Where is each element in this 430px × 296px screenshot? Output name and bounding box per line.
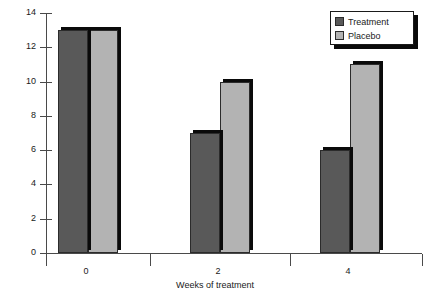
bar-placebo-week-4 xyxy=(350,64,380,253)
y-axis-tick-label: 2 xyxy=(8,214,36,223)
legend-item-treatment: Treatment xyxy=(335,15,413,28)
legend-swatch-icon xyxy=(335,31,344,40)
y-axis-tick xyxy=(40,253,52,254)
y-axis-tick xyxy=(40,116,52,117)
y-axis-tick-label: 14 xyxy=(8,8,36,17)
legend-box: Treatment Placebo xyxy=(330,11,414,45)
legend-label: Treatment xyxy=(348,17,389,27)
x-axis-tick-label: 0 xyxy=(66,266,106,276)
x-axis-tick xyxy=(422,254,423,266)
y-axis-tick xyxy=(40,47,52,48)
bar-face xyxy=(350,64,380,253)
bar-placebo-week-2 xyxy=(220,82,250,253)
bar-treatment-week-0 xyxy=(58,30,88,253)
y-axis-tick-label: 6 xyxy=(8,145,36,154)
y-axis-tick xyxy=(40,184,52,185)
y-axis-tick xyxy=(40,219,52,220)
bar-treatment-week-4 xyxy=(320,150,350,253)
y-axis-tick-label: 12 xyxy=(8,42,36,51)
x-axis-tick-label: 2 xyxy=(198,266,238,276)
legend-item-placebo: Placebo xyxy=(335,29,413,42)
bar-treatment-week-2 xyxy=(190,133,220,253)
legend: Treatment Placebo xyxy=(330,11,414,45)
y-axis-tick-label: 8 xyxy=(8,111,36,120)
y-axis-tick xyxy=(40,13,52,14)
bar-face xyxy=(190,133,220,253)
legend-swatch-icon xyxy=(335,17,344,26)
x-axis-tick xyxy=(150,254,151,266)
x-axis-line xyxy=(46,253,422,254)
x-axis-tick-label: 4 xyxy=(328,266,368,276)
bar-face xyxy=(320,150,350,253)
y-axis-tick-label: 4 xyxy=(8,179,36,188)
bar-placebo-week-0 xyxy=(88,30,118,253)
x-axis-tick xyxy=(290,254,291,266)
bar-face xyxy=(58,30,88,253)
y-axis-line xyxy=(46,13,47,266)
y-axis-tick-label: 0 xyxy=(8,248,36,257)
y-axis-tick xyxy=(40,150,52,151)
legend-label: Placebo xyxy=(348,31,381,41)
y-axis-tick-label: 10 xyxy=(8,77,36,86)
bar-chart: 02468101214 024 Weeks of treatment Treat… xyxy=(0,0,430,296)
bar-face xyxy=(88,30,118,253)
bar-face xyxy=(220,82,250,253)
x-axis-title: Weeks of treatment xyxy=(0,280,430,290)
y-axis-tick xyxy=(40,82,52,83)
